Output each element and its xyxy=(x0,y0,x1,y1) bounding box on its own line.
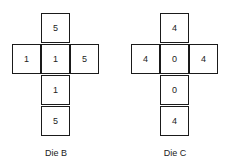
die-b-face-right: 5 xyxy=(70,44,99,74)
die-c-face-top: 4 xyxy=(160,13,189,43)
die-b-face-top: 5 xyxy=(41,13,70,43)
die-b-face-below: 1 xyxy=(41,75,70,105)
die-b-face-center: 1 xyxy=(41,44,70,74)
die-c-face-left: 4 xyxy=(131,44,160,74)
die-c-face-center: 0 xyxy=(160,44,189,74)
die-c-label: Die C xyxy=(145,148,205,158)
die-c-face-bottom: 4 xyxy=(160,106,189,136)
die-c-face-below: 0 xyxy=(160,75,189,105)
die-b-face-left: 1 xyxy=(12,44,41,74)
die-b-label: Die B xyxy=(26,148,86,158)
die-c-face-right: 4 xyxy=(189,44,218,74)
die-b-face-bottom: 5 xyxy=(41,106,70,136)
